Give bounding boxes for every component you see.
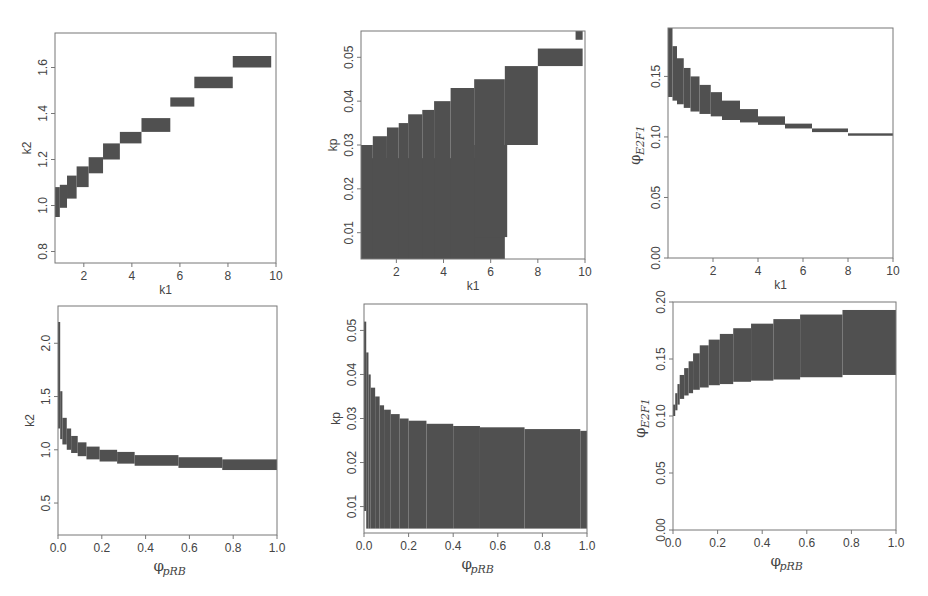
y-tick-label: 1.0 xyxy=(36,197,50,214)
x-tick-label: 0.0 xyxy=(356,539,373,553)
y-tick-label: 1.0 xyxy=(39,441,53,458)
y-tick-label: 0.03 xyxy=(342,133,356,157)
region-block xyxy=(399,123,408,259)
x-tick-label: 6 xyxy=(177,269,184,283)
region-block xyxy=(55,187,60,217)
y-tick-label: 0.05 xyxy=(342,45,356,69)
region-block xyxy=(380,405,384,528)
chart-svg: 2468100.000.050.100.15k1φE2F1 xyxy=(610,0,928,298)
y-tick-label: 0.02 xyxy=(342,177,356,201)
region-block xyxy=(103,143,120,159)
region-block xyxy=(141,118,170,132)
y-axis-label: kp xyxy=(329,412,343,425)
region-block xyxy=(78,442,87,456)
x-tick-label: 0.8 xyxy=(843,536,860,550)
x-tick-label: 10 xyxy=(886,264,900,278)
y-axis-label: k2 xyxy=(23,414,37,427)
region-block xyxy=(785,124,812,129)
data-region xyxy=(668,28,893,136)
y-tick-label: 0.04 xyxy=(345,362,359,386)
y-tick-label: 0.05 xyxy=(345,318,359,342)
region-block xyxy=(434,101,451,259)
x-tick-label: 0.8 xyxy=(225,541,242,555)
region-block xyxy=(77,166,89,187)
region-block xyxy=(373,136,387,259)
y-tick-label: 0.10 xyxy=(649,125,663,149)
plot-frame xyxy=(58,306,277,535)
x-tick-label: 6 xyxy=(800,264,807,278)
region-block xyxy=(474,145,507,237)
plot-frame xyxy=(668,28,893,258)
x-tick-label: 4 xyxy=(129,269,136,283)
region-block xyxy=(538,49,583,67)
region-block xyxy=(67,176,77,199)
x-tick-label: 0.8 xyxy=(534,539,551,553)
plot-kp-vs-phipRB: 0.00.20.40.60.81.00.010.020.030.040.05φp… xyxy=(310,290,620,596)
region-block xyxy=(711,92,722,116)
y-tick-label: 0.5 xyxy=(39,494,53,511)
y-tick-label: 0.02 xyxy=(345,451,359,475)
region-block xyxy=(684,368,688,395)
y-tick-label: 0.01 xyxy=(342,221,356,245)
region-block xyxy=(60,185,67,208)
x-tick-label: 0.2 xyxy=(709,536,726,550)
chart-svg: 0.00.20.40.60.81.00.51.01.52.0φpRBk2 xyxy=(0,290,310,596)
x-tick-label: 0.2 xyxy=(400,539,417,553)
region-block xyxy=(580,431,587,529)
region-block xyxy=(361,145,373,259)
region-block xyxy=(408,114,422,259)
region-block xyxy=(722,101,740,120)
data-region xyxy=(58,322,277,470)
plot-phiE2F1-vs-k1: 2468100.000.050.100.15k1φE2F1 xyxy=(610,0,928,298)
region-block xyxy=(368,374,370,528)
y-tick-label: 0.03 xyxy=(345,406,359,430)
region-block xyxy=(451,88,475,259)
x-axis-label-subscript: pRB xyxy=(471,563,494,576)
region-block xyxy=(668,28,673,97)
region-block xyxy=(60,391,62,439)
region-block xyxy=(62,418,66,445)
y-tick-label: 0.8 xyxy=(36,243,50,260)
x-tick-label: 4 xyxy=(755,264,762,278)
region-block xyxy=(120,132,142,144)
plot-k2-vs-k1: 2468100.81.01.21.41.6k1k2 xyxy=(0,0,310,298)
y-axis-label: kp xyxy=(326,138,340,151)
y-axis-label-subscript: E2F1 xyxy=(634,125,647,156)
data-region xyxy=(361,31,583,259)
x-tick-label: 0.6 xyxy=(798,536,815,550)
y-tick-label: 0.15 xyxy=(654,347,668,371)
region-block xyxy=(673,46,678,100)
region-block xyxy=(684,68,691,108)
region-block xyxy=(71,436,78,453)
region-block xyxy=(680,375,684,399)
region-block xyxy=(700,85,711,114)
y-tick-label: 0.01 xyxy=(345,495,359,519)
x-tick-label: 4 xyxy=(440,265,447,279)
region-block xyxy=(422,110,434,259)
region-block xyxy=(391,414,400,529)
plot-phiE2F1-vs-phipRB: 0.00.20.40.60.81.00.000.050.100.150.20φp… xyxy=(610,290,928,596)
region-block xyxy=(700,345,709,387)
y-tick-label: 0.00 xyxy=(649,246,663,270)
x-tick-label: 0.4 xyxy=(445,539,462,553)
region-block xyxy=(67,428,71,449)
x-tick-label: 0.2 xyxy=(93,541,110,555)
x-axis-label-subscript: pRB xyxy=(780,560,803,573)
y-tick-label: 0.00 xyxy=(654,518,668,542)
region-block xyxy=(100,450,118,462)
y-axis-label-subscript: E2F1 xyxy=(639,398,652,429)
y-tick-label: 0.15 xyxy=(649,64,663,88)
region-block xyxy=(387,127,399,259)
y-tick-label: 0.20 xyxy=(654,290,668,314)
region-block xyxy=(194,77,232,89)
y-tick-label: 1.4 xyxy=(36,105,50,122)
x-tick-label: 8 xyxy=(225,269,232,283)
plot-k2-vs-phipRB: 0.00.20.40.60.81.00.51.01.52.0φpRBk2 xyxy=(0,290,310,596)
x-tick-label: 0.4 xyxy=(137,541,154,555)
x-tick-label: 10 xyxy=(578,265,592,279)
x-tick-label: 0.0 xyxy=(50,541,67,555)
region-block xyxy=(693,353,700,389)
chart-svg: 2468100.010.020.030.040.05k1kp xyxy=(310,0,620,298)
region-block xyxy=(848,133,893,135)
data-region xyxy=(364,322,587,529)
